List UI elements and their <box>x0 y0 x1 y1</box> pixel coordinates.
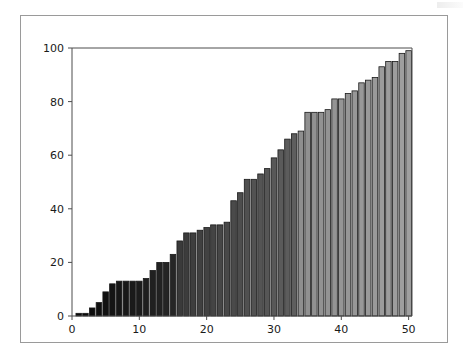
bar <box>305 112 311 316</box>
bar <box>318 112 324 316</box>
bar <box>345 94 351 316</box>
bar <box>177 241 183 316</box>
bar <box>278 150 284 316</box>
bar <box>244 179 250 316</box>
bar <box>116 281 122 316</box>
bar <box>325 110 331 316</box>
bar <box>392 61 398 316</box>
y-tick-label: 80 <box>50 96 64 109</box>
bar <box>379 67 385 316</box>
bar <box>271 158 277 316</box>
x-tick-label: 0 <box>69 323 76 336</box>
bar <box>352 91 358 316</box>
y-axis-ticks: 020406080100 <box>43 42 72 323</box>
bar <box>238 193 244 316</box>
bar <box>137 281 143 316</box>
y-tick-label: 20 <box>50 256 64 269</box>
bar <box>264 169 270 316</box>
bar <box>190 233 196 316</box>
bar <box>372 77 378 316</box>
bar <box>386 61 392 316</box>
bar <box>197 230 203 316</box>
bar <box>150 270 156 316</box>
bar-chart: 01020304050 020406080100 <box>0 0 469 363</box>
bar <box>89 308 95 316</box>
bar <box>204 228 210 316</box>
bar <box>285 139 291 316</box>
x-axis-ticks: 01020304050 <box>69 316 416 336</box>
bar <box>164 262 170 316</box>
bar <box>130 281 136 316</box>
y-tick-label: 40 <box>50 203 64 216</box>
bar <box>217 225 223 316</box>
y-tick-label: 60 <box>50 149 64 162</box>
x-tick-label: 30 <box>267 323 281 336</box>
x-tick-label: 10 <box>132 323 146 336</box>
bar <box>110 284 116 316</box>
bar <box>251 179 257 316</box>
bar <box>103 292 109 316</box>
bar <box>143 278 149 316</box>
bar <box>96 303 102 316</box>
bar <box>332 99 338 316</box>
bar <box>184 233 190 316</box>
bar <box>224 222 230 316</box>
page-root: 01020304050 020406080100 <box>0 0 469 363</box>
bar <box>365 80 371 316</box>
bar <box>258 174 264 316</box>
bar <box>157 262 163 316</box>
x-tick-label: 20 <box>200 323 214 336</box>
y-tick-label: 0 <box>57 310 64 323</box>
bar <box>231 201 237 316</box>
bar <box>123 281 129 316</box>
x-tick-label: 40 <box>334 323 348 336</box>
bar <box>170 254 176 316</box>
x-tick-label: 50 <box>402 323 416 336</box>
y-tick-label: 100 <box>43 42 64 55</box>
bar <box>291 134 297 316</box>
bar <box>406 51 412 316</box>
bar <box>339 99 345 316</box>
bar <box>211 225 217 316</box>
bar <box>298 131 304 316</box>
bars-layer <box>76 51 411 316</box>
bar <box>399 53 405 316</box>
bar <box>312 112 318 316</box>
bar <box>359 83 365 316</box>
